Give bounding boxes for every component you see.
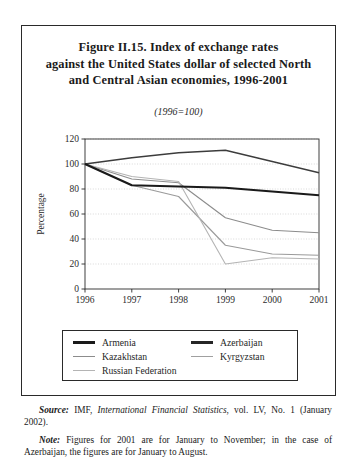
legend-entry-russian-federation[interactable]: Russian Federation bbox=[63, 364, 181, 377]
note-text: Figures for 2001 are for January to Nove… bbox=[24, 435, 332, 457]
figure-subtitle: (1996=100) bbox=[22, 106, 335, 117]
legend-label-kyrgyzstan: Kyrgyzstan bbox=[220, 351, 264, 362]
legend-entry-kazakhstan[interactable]: Kazakhstan bbox=[63, 350, 181, 363]
legend-entry-empty bbox=[181, 364, 299, 377]
x-tick-label-1999: 1999 bbox=[216, 295, 235, 305]
legend-swatch-kazakhstan bbox=[73, 356, 95, 358]
legend-entry-azerbaijan[interactable]: Azerbaijan bbox=[181, 336, 299, 349]
source-text-part1: IMF, bbox=[69, 405, 97, 415]
y-tick-label-0: 0 bbox=[74, 284, 79, 294]
legend-swatch-azerbaijan bbox=[191, 341, 213, 344]
note-label: Note: bbox=[39, 435, 60, 445]
x-tick-label-1998: 1998 bbox=[169, 295, 188, 305]
chart-gridlines bbox=[85, 139, 319, 264]
chart-svg: 020406080100120 199619971998199920002001… bbox=[22, 126, 337, 326]
legend-entry-armenia[interactable]: Armenia bbox=[63, 336, 181, 349]
series-line-armenia bbox=[85, 164, 319, 195]
series-line-azerbaijan bbox=[85, 150, 319, 173]
figure-container: Figure II.15. Index of exchange rates ag… bbox=[21, 25, 336, 396]
chart-legend: ArmeniaAzerbaijanKazakhstanKyrgyzstanRus… bbox=[62, 330, 298, 381]
x-tick-label-2001: 2001 bbox=[310, 295, 329, 305]
legend-label-russian-federation: Russian Federation bbox=[102, 365, 177, 376]
chart-y-axis: 020406080100120 bbox=[65, 134, 85, 294]
source-publication-title: International Financial Statistics bbox=[97, 405, 226, 415]
legend-entry-kyrgyzstan[interactable]: Kyrgyzstan bbox=[181, 350, 299, 363]
source-label: Source: bbox=[39, 405, 69, 415]
y-axis-title-text: Percentage bbox=[36, 193, 46, 235]
line-chart: 020406080100120 199619971998199920002001… bbox=[22, 126, 337, 326]
figure-title-line-2: against the United States dollar of sele… bbox=[22, 56, 335, 73]
legend-swatch-russian-federation bbox=[73, 370, 95, 372]
chart-series-layer bbox=[85, 150, 319, 264]
figure-title: Figure II.15. Index of exchange rates ag… bbox=[22, 39, 335, 89]
chart-y-axis-title: Percentage bbox=[36, 193, 46, 235]
source-note: Source: IMF, International Financial Sta… bbox=[24, 404, 332, 428]
legend-label-armenia: Armenia bbox=[102, 337, 136, 348]
legend-swatch-kyrgyzstan bbox=[191, 356, 213, 358]
x-tick-label-1997: 1997 bbox=[122, 295, 141, 305]
y-tick-label-60: 60 bbox=[70, 209, 80, 219]
y-tick-label-40: 40 bbox=[70, 234, 80, 244]
y-tick-label-120: 120 bbox=[65, 134, 80, 144]
y-tick-label-80: 80 bbox=[70, 184, 80, 194]
y-tick-label-20: 20 bbox=[70, 259, 80, 269]
x-tick-label-1996: 1996 bbox=[76, 295, 95, 305]
x-tick-label-2000: 2000 bbox=[263, 295, 282, 305]
legend-swatch-armenia bbox=[73, 341, 95, 344]
figure-title-line-3: and Central Asian economies, 1996-2001 bbox=[22, 72, 335, 89]
figure-title-line-1: Figure II.15. Index of exchange rates bbox=[22, 39, 335, 56]
legend-grid: ArmeniaAzerbaijanKazakhstanKyrgyzstanRus… bbox=[63, 336, 297, 377]
series-line-kyrgyzstan bbox=[85, 164, 319, 255]
y-tick-label-100: 100 bbox=[65, 159, 80, 169]
chart-x-axis: 199619971998199920002001 bbox=[76, 289, 329, 305]
general-note: Note: Figures for 2001 are for January t… bbox=[24, 434, 332, 458]
legend-label-azerbaijan: Azerbaijan bbox=[220, 337, 263, 348]
legend-label-kazakhstan: Kazakhstan bbox=[102, 351, 147, 362]
